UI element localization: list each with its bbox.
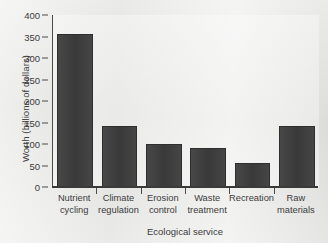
y-tick-label: 150 — [24, 117, 40, 128]
bar — [146, 144, 181, 187]
y-tick-label: 300 — [24, 53, 40, 64]
bar — [190, 148, 225, 187]
x-category-label: Recreation — [229, 193, 274, 205]
bar-series — [53, 15, 319, 187]
y-tick-mark — [42, 122, 48, 123]
y-tick-label: 350 — [24, 31, 40, 42]
y-tick-mark — [42, 79, 48, 80]
y-tick-mark — [42, 15, 48, 16]
y-tick-label: 0 — [35, 182, 40, 193]
y-tick-mark — [42, 144, 48, 145]
y-tick-label: 50 — [29, 160, 40, 171]
y-tick-label: 100 — [24, 139, 40, 150]
y-tick-mark — [42, 165, 48, 166]
y-axis-tick-labels: 050100150200250300350400 — [0, 0, 50, 243]
x-category-label: Nutrientcycling — [58, 193, 91, 216]
y-tick-mark — [42, 187, 48, 188]
x-category-label: Erosioncontrol — [147, 193, 179, 216]
plot-area — [52, 15, 319, 187]
bar — [279, 126, 314, 187]
y-tick-mark — [42, 36, 48, 37]
y-tick-mark — [42, 58, 48, 59]
x-axis-label: Ecological service — [52, 226, 318, 237]
x-category-label: Wastetreatment — [188, 193, 227, 216]
y-tick-label: 250 — [24, 74, 40, 85]
x-category-label: Rawmaterials — [277, 193, 315, 216]
bar — [57, 34, 92, 188]
x-category-label: Climateregulation — [98, 193, 139, 216]
y-tick-label: 200 — [24, 96, 40, 107]
chart-figure: Worth (billions of dollars) 050100150200… — [0, 0, 328, 243]
y-tick-label: 400 — [24, 10, 40, 21]
x-axis-category-labels: NutrientcyclingClimateregulationErosionc… — [52, 193, 318, 225]
bar — [102, 126, 137, 187]
bar — [235, 163, 270, 187]
y-tick-mark — [42, 101, 48, 102]
